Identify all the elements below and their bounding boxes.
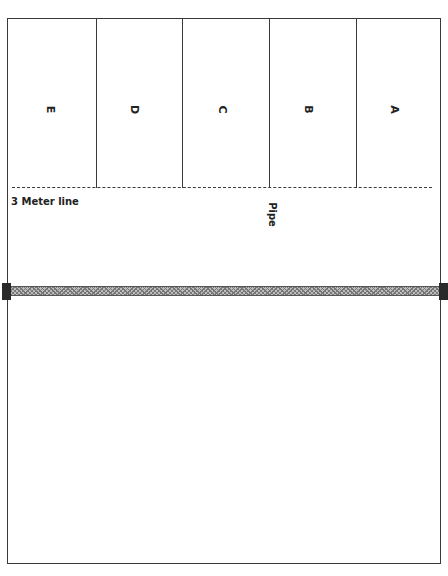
net-post-right bbox=[439, 283, 448, 300]
three-meter-line bbox=[12, 187, 432, 188]
zone-label-e: E bbox=[44, 100, 57, 120]
pipe-label: Pipe bbox=[267, 202, 278, 227]
three-meter-line-label: 3 Meter line bbox=[11, 196, 79, 207]
zone-label-a: A bbox=[388, 100, 401, 120]
zone-label-c: C bbox=[216, 100, 229, 120]
zone-divider-c-b bbox=[269, 18, 270, 188]
net-post-left bbox=[2, 283, 11, 300]
zone-label-b: B bbox=[302, 100, 315, 120]
zone-label-d: D bbox=[128, 100, 141, 120]
zone-divider-b-a bbox=[356, 18, 357, 188]
zone-divider-d-c bbox=[182, 18, 183, 188]
zone-divider-e-d bbox=[96, 18, 97, 188]
net bbox=[9, 286, 441, 296]
